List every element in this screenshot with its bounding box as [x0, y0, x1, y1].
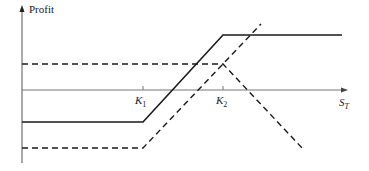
- long-position-dashed-line: [22, 24, 261, 148]
- x-axis-arrow-icon: [341, 88, 348, 93]
- y-axis-arrow-icon: [20, 5, 25, 12]
- k2-label: K2: [216, 94, 227, 109]
- y-axis-label: Profit: [29, 3, 54, 15]
- short-position-dashed-line: [22, 64, 303, 149]
- x-axis-label: ST: [339, 96, 349, 111]
- payoff-diagram: [0, 0, 369, 171]
- combined-payoff-line: [22, 35, 342, 122]
- k1-label: K1: [135, 94, 146, 109]
